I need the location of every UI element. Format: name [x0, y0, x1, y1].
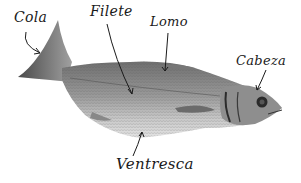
label-cola: Cola [14, 9, 47, 25]
arrow-cabeza [257, 70, 266, 90]
fish-cuts-diagram: Cola Filete Lomo Cabeza Ventresca [0, 0, 301, 183]
label-ventresca: Ventresca [116, 155, 194, 173]
label-filete: Filete [90, 3, 133, 19]
label-cabeza: Cabeza [236, 53, 286, 68]
label-lomo: Lomo [150, 14, 188, 29]
fish-head [220, 85, 282, 125]
